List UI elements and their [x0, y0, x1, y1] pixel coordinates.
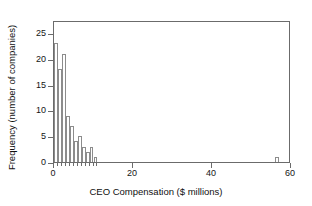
y-axis-title: Frequency (number of companies): [6, 23, 17, 173]
histogram-chart: 0510152025 0204060 CEO Compensation ($ m…: [0, 0, 312, 206]
x-axis-tick-label: 0: [50, 169, 55, 178]
x-axis-minor-tick: [57, 163, 58, 166]
y-axis-tick-label: 15: [36, 81, 46, 90]
plot-area: [54, 22, 289, 162]
x-axis-minor-tick: [77, 163, 78, 166]
x-axis-minor-tick: [89, 163, 90, 166]
x-axis-minor-tick: [69, 163, 70, 166]
x-axis-minor-tick: [61, 163, 62, 166]
y-axis-tick-label: 0: [41, 158, 46, 167]
plot-frame: [53, 21, 290, 163]
x-axis-minor-tick: [96, 163, 97, 166]
x-axis-minor-tick: [73, 163, 74, 166]
histogram-bar: [275, 157, 279, 162]
y-axis-tick-label: 25: [36, 29, 46, 38]
y-axis-tick-label: 5: [41, 132, 46, 141]
x-axis-tick-label: 60: [285, 169, 295, 178]
x-axis-minor-tick: [65, 163, 66, 166]
x-axis-title: CEO Compensation ($ millions): [0, 186, 312, 197]
x-axis-minor-tick: [81, 163, 82, 166]
x-axis-tick-label: 20: [127, 169, 137, 178]
x-axis-tick-label: 40: [206, 169, 216, 178]
y-axis-tick-label: 10: [36, 106, 46, 115]
y-axis-tick-label: 20: [36, 55, 46, 64]
histogram-bar: [94, 157, 98, 162]
x-axis-minor-tick: [93, 163, 94, 166]
x-axis-minor-tick: [85, 163, 86, 166]
